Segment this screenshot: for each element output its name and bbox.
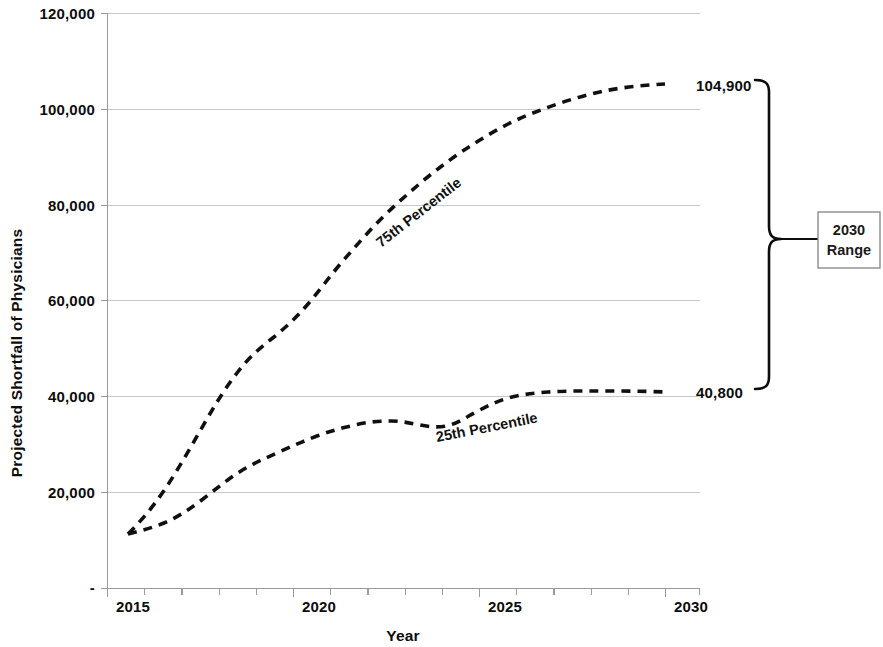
endpoint-label-upper: 104,900 bbox=[696, 77, 752, 94]
callout-line-range: Range bbox=[827, 242, 871, 258]
y-axis-ticks bbox=[101, 14, 107, 589]
endpoint-labels: 104,900 40,800 bbox=[696, 77, 752, 401]
range-brace bbox=[755, 80, 818, 389]
callout-box-2030-range bbox=[818, 212, 880, 268]
y-tick-label-80000: 80,000 bbox=[48, 197, 95, 214]
x-tick-label-2030: 2030 bbox=[674, 598, 708, 615]
callout-line-year: 2030 bbox=[833, 222, 865, 238]
x-tick-label-2015: 2015 bbox=[116, 598, 150, 615]
gridlines bbox=[107, 14, 700, 493]
series-paths bbox=[128, 84, 665, 534]
x-axis-ticks bbox=[108, 588, 700, 597]
y-tick-label-100000: 100,000 bbox=[39, 101, 95, 118]
chart-container: 120,000 100,000 80,000 60,000 40,000 20,… bbox=[0, 0, 883, 647]
x-axis-title: Year bbox=[386, 627, 420, 644]
series-line-75th-percentile bbox=[128, 84, 665, 534]
range-callout: 2030 Range bbox=[818, 212, 880, 268]
y-tick-label-60000: 60,000 bbox=[48, 292, 95, 309]
x-axis-tick-labels: 2015 2020 2025 2030 bbox=[116, 598, 708, 615]
x-tick-label-2020: 2020 bbox=[302, 598, 336, 615]
y-tick-label-120000: 120,000 bbox=[39, 5, 95, 22]
y-axis-title: Projected Shortfall of Physicians bbox=[8, 229, 25, 478]
y-axis-tick-labels: 120,000 100,000 80,000 60,000 40,000 20,… bbox=[39, 5, 95, 596]
y-tick-label-20000: 20,000 bbox=[48, 484, 95, 501]
projected-physician-shortfall-chart: 120,000 100,000 80,000 60,000 40,000 20,… bbox=[0, 0, 883, 647]
y-tick-label-0: - bbox=[90, 579, 95, 596]
series-label-25th-percentile: 25th Percentile bbox=[435, 410, 539, 445]
curly-brace-2030-range bbox=[755, 80, 781, 389]
x-tick-label-2025: 2025 bbox=[488, 598, 522, 615]
series-line-25th-percentile bbox=[128, 391, 665, 534]
endpoint-label-lower: 40,800 bbox=[696, 384, 743, 401]
y-tick-label-40000: 40,000 bbox=[48, 388, 95, 405]
